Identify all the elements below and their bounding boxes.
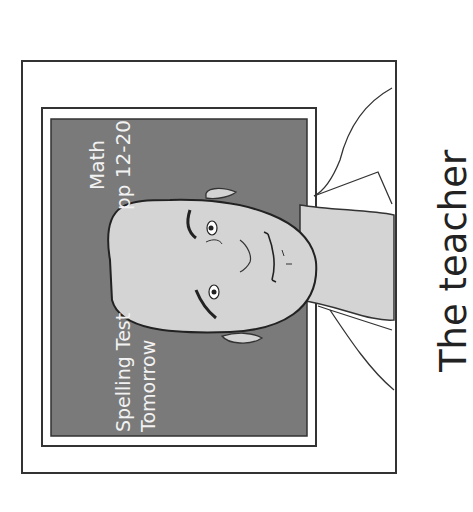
caption: The teacher: [434, 150, 473, 372]
chalk-line-pages: pp 12-20: [110, 120, 136, 210]
chalk-line-tomorrow: Tomorrow: [136, 313, 161, 432]
chalk-text-math: Math pp 12-20: [84, 120, 136, 210]
chalk-line-spelling: Spelling Test: [111, 313, 136, 432]
teacher-illustration: [0, 0, 473, 512]
chalk-text-spelling: Spelling Test Tomorrow: [111, 313, 161, 432]
chalk-line-math: Math: [84, 120, 110, 210]
